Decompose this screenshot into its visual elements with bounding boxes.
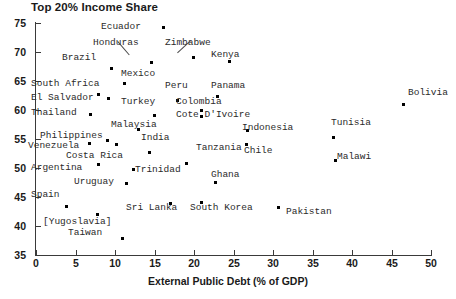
point-label: Colombia: [176, 97, 222, 107]
data-point[interactable]: [185, 162, 188, 165]
point-label: Brazil: [62, 53, 96, 63]
point-label: South Africa: [31, 79, 99, 89]
data-point[interactable]: [97, 163, 100, 166]
x-tick-label: 10: [100, 257, 130, 269]
point-label: El Salvador: [31, 93, 94, 103]
x-tick-mark: [76, 250, 77, 255]
point-label: Taiwan: [68, 228, 102, 238]
x-tick-mark: [36, 250, 37, 255]
point-label: Tunisia: [331, 118, 371, 128]
y-tick-label: 65: [2, 75, 26, 87]
data-point[interactable]: [150, 61, 153, 64]
point-label: Trinidad: [135, 165, 181, 175]
scatter-chart: Top 20% Income Share 354045505560657075 …: [0, 0, 456, 299]
chart-title: Top 20% Income Share: [31, 1, 158, 13]
data-point[interactable]: [89, 113, 92, 116]
point-label: Chile: [244, 146, 273, 156]
point-label: [Yugoslavia]: [43, 217, 111, 227]
point-label: Sri Lanka: [126, 203, 177, 213]
data-point[interactable]: [65, 205, 68, 208]
y-tick-mark: [36, 52, 41, 53]
data-point[interactable]: [97, 93, 100, 96]
data-point[interactable]: [332, 136, 335, 139]
point-label: India: [141, 133, 170, 143]
x-tick-label: 0: [21, 257, 51, 269]
y-tick-mark: [36, 226, 41, 227]
data-point[interactable]: [192, 56, 195, 59]
point-label: Thailand: [31, 108, 77, 118]
x-tick-label: 45: [377, 257, 407, 269]
x-tick-label: 50: [416, 257, 446, 269]
point-label: Panama: [211, 81, 245, 91]
data-point[interactable]: [162, 26, 165, 29]
y-tick-label: 60: [2, 104, 26, 116]
data-point[interactable]: [121, 237, 124, 240]
point-label: Kenya: [211, 50, 240, 60]
y-tick-label: 40: [2, 220, 26, 232]
y-tick-label: 75: [2, 17, 26, 29]
x-axis-line: [35, 255, 432, 256]
data-point[interactable]: [110, 67, 113, 70]
point-label: Uruguay: [74, 177, 114, 187]
point-label: Turkey: [121, 97, 155, 107]
x-tick-label: 40: [337, 257, 367, 269]
data-point[interactable]: [106, 139, 109, 142]
data-point[interactable]: [402, 103, 405, 106]
data-point[interactable]: [148, 151, 151, 154]
point-label: Costa Rica: [66, 151, 123, 161]
point-label: Malawi: [337, 152, 371, 162]
point-label: Bolivia: [408, 88, 448, 98]
data-point[interactable]: [228, 60, 231, 63]
point-label: South Korea: [190, 203, 253, 213]
data-point[interactable]: [153, 114, 156, 117]
point-label: Argentina: [31, 163, 82, 173]
x-tick-label: 5: [61, 257, 91, 269]
data-point[interactable]: [214, 181, 217, 184]
y-tick-mark: [36, 23, 41, 24]
x-tick-label: 30: [258, 257, 288, 269]
x-tick-mark: [234, 250, 235, 255]
y-tick-mark: [36, 255, 41, 256]
x-tick-mark: [115, 250, 116, 255]
data-point[interactable]: [123, 82, 126, 85]
point-label: Peru: [165, 81, 188, 91]
data-point[interactable]: [115, 143, 118, 146]
x-tick-label: 15: [140, 257, 170, 269]
point-label: Mexico: [121, 69, 155, 79]
point-label: Spain: [31, 190, 60, 200]
point-label: Indonesia: [242, 123, 293, 133]
data-point[interactable]: [107, 97, 110, 100]
y-tick-label: 45: [2, 191, 26, 203]
y-tick-label: 50: [2, 162, 26, 174]
point-label: Cote D'Ivoire: [176, 110, 250, 120]
x-tick-label: 20: [179, 257, 209, 269]
x-axis-title: External Public Debt (% of GDP): [0, 275, 456, 287]
x-tick-mark: [431, 250, 432, 255]
x-tick-mark: [313, 250, 314, 255]
x-tick-mark: [392, 250, 393, 255]
data-point[interactable]: [277, 206, 280, 209]
data-point[interactable]: [88, 142, 91, 145]
point-label: Tanzania: [196, 143, 242, 153]
data-point[interactable]: [125, 182, 128, 185]
x-tick-label: 35: [298, 257, 328, 269]
x-tick-mark: [155, 250, 156, 255]
point-label: Honduras: [93, 38, 139, 48]
point-label: Pakistan: [286, 207, 332, 217]
y-tick-label: 55: [2, 133, 26, 145]
x-tick-label: 25: [219, 257, 249, 269]
x-tick-mark: [273, 250, 274, 255]
point-label: Malaysia: [111, 120, 157, 130]
point-label: Ecuador: [101, 22, 141, 32]
x-tick-mark: [194, 250, 195, 255]
point-label: Ghana: [211, 170, 240, 180]
y-tick-label: 70: [2, 46, 26, 58]
x-tick-mark: [352, 250, 353, 255]
